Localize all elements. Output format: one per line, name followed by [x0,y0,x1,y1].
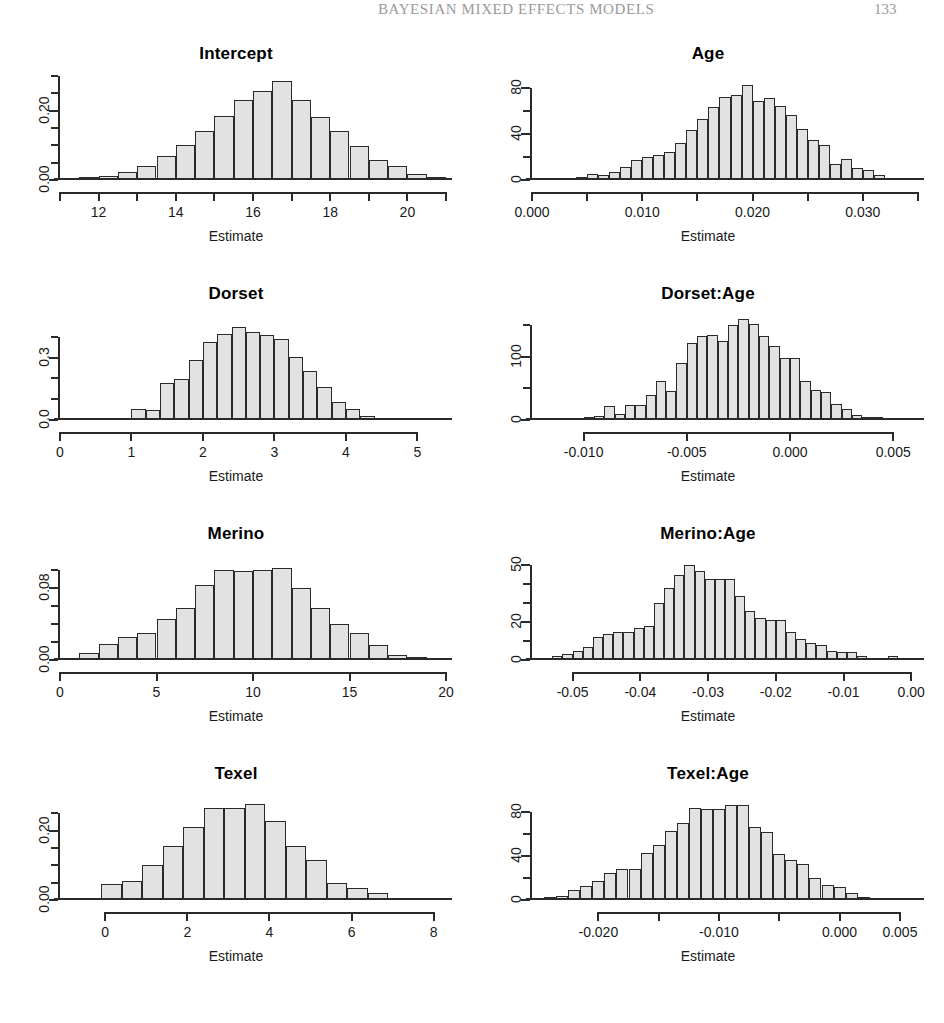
x-axis-label: 0.030 [845,204,880,220]
y-axis-tick [51,864,58,866]
histogram-bars [60,76,446,180]
histogram-bar [253,91,272,180]
panel-texel-age: Texel:Age04080-0.020-0.0100.0000.005Esti… [472,752,944,992]
y-axis-label: 40 [508,847,524,863]
histogram-bar [224,808,245,900]
plot-baseline [526,898,924,900]
histogram-bar [753,101,764,180]
histogram-bar [195,131,214,180]
x-axis: 1214161820 [60,192,446,226]
histogram-bar [800,381,810,420]
histogram-bar [773,854,785,900]
x-axis-spine [532,192,918,194]
histogram-bar [195,585,214,660]
x-axis-tick [696,192,698,201]
histogram-bar [350,146,369,180]
y-axis-tick [51,162,58,164]
y-axis-tick [523,583,530,585]
y-axis-tick [51,623,58,625]
y-axis-tick [51,812,58,814]
x-axis-tick [416,432,418,441]
x-axis-label: 0.005 [882,924,917,940]
histogram-bar [289,357,303,420]
x-axis-tick [658,912,660,921]
histogram-bar [292,100,311,180]
histogram-bar [808,140,819,180]
histogram-bar [713,809,725,900]
plot-area [532,76,918,180]
histogram-bar [764,98,775,180]
panel-texel: Texel0.000.2002468Estimate [0,752,472,992]
histogram-bar [674,575,684,660]
y-axis-tick [51,92,58,94]
y-axis-tick [51,377,58,379]
x-axis-tick [98,192,100,201]
histogram-bar [689,808,701,900]
histogram-bar [735,596,745,660]
histogram-bar [749,827,761,900]
histogram-bar [737,805,749,900]
y-axis-tick [51,847,58,849]
x-axis-label: 4 [342,444,350,460]
x-axis-tick [718,912,720,921]
histogram-bar [253,570,272,660]
y-axis-label: 40 [508,125,524,141]
y-axis-label: 50 [508,557,524,573]
x-axis-label: 16 [245,204,261,220]
histogram-bar [234,571,253,660]
histogram-bar [684,565,694,660]
histogram-bar [761,832,773,900]
x-axis-tick [917,192,919,201]
histogram-bar [157,619,176,660]
x-axis-tick [351,912,353,921]
histogram-bar [665,831,677,900]
histogram-bar [725,579,735,660]
x-axis-tick [252,192,254,201]
x-axis-tick [445,672,447,681]
x-axis-label: 2 [199,444,207,460]
y-axis-tick [523,602,530,604]
histogram-bar [350,633,369,660]
histogram-bar [272,81,291,180]
x-axis-tick [130,432,132,441]
histogram-bar [745,611,755,660]
histogram-bar [664,588,674,660]
histogram-bar [311,608,330,660]
plot-area [60,316,446,420]
histogram-bar [234,100,253,180]
plot-area [60,76,446,180]
x-axis-label: 5 [153,684,161,700]
y-axis-tick [523,833,530,835]
histogram-bar [705,579,715,660]
x-axis-spine [584,432,894,434]
histogram-bar [160,383,174,420]
x-axis-tick [368,192,370,201]
panel-title: Dorset:Age [472,284,944,304]
x-axis-label: 10 [245,684,261,700]
histogram-bar [245,804,266,900]
histogram-bar [317,387,331,420]
histogram-bar [623,632,633,660]
x-axis-tick [597,912,599,921]
y-axis: 0.000.20 [46,76,60,180]
x-axis-tick [639,672,641,681]
x-axis-tick [329,192,331,201]
x-axis-tick [862,192,864,201]
x-axis: -0.010-0.0050.0000.005 [532,432,918,466]
x-axis-label: -0.04 [624,684,656,700]
x-axis-tick [104,912,106,921]
histogram-bar [642,157,653,180]
x-axis-label: 4 [266,924,274,940]
histogram-bar [821,392,831,420]
panel-intercept: Intercept0.000.201214161820Estimate [0,32,472,272]
histogram-bar [738,319,748,420]
histogram-bar [176,608,195,660]
histogram-bar [603,634,613,660]
y-axis-label: 80 [508,79,524,95]
panel-title: Merino [0,524,472,544]
x-axis-label: -0.01 [828,684,860,700]
y-axis-label: 0.3 [36,347,52,366]
plot-area [60,556,446,660]
x-axis-tick [202,432,204,441]
histogram-bar [646,395,656,420]
